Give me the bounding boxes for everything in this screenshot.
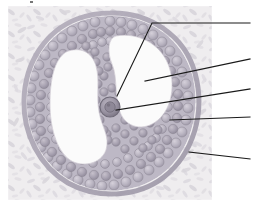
- leader-line-oocyte-lower[interactable]: [116, 89, 250, 110]
- leader-line-oocyte-upper[interactable]: [117, 23, 250, 96]
- leader-line-layer: [0, 0, 255, 212]
- leader-lines-svg: [0, 0, 255, 212]
- scan-speck-artifact: [30, 1, 33, 3]
- leader-line-granulosa[interactable]: [170, 117, 250, 120]
- leader-line-stroma[interactable]: [189, 152, 250, 159]
- ovarian-follicle-figure: [0, 0, 255, 212]
- leader-line-antrum[interactable]: [145, 59, 250, 81]
